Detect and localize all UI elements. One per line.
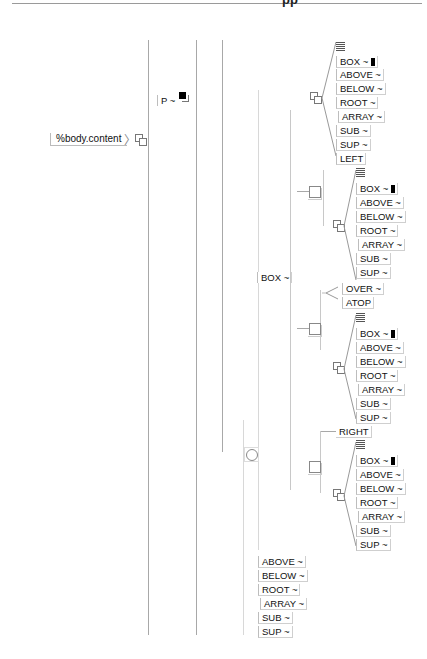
g2-stem	[323, 170, 324, 226]
g3-head-0[interactable]: OVER ~	[342, 283, 384, 295]
g2-list-icon	[356, 168, 365, 178]
g3-stem-a	[320, 290, 321, 350]
top-rule	[12, 3, 422, 4]
g4-head-0[interactable]: RIGHT	[336, 426, 372, 438]
g2-box-icon[interactable]	[309, 186, 321, 198]
stem-main	[290, 110, 291, 490]
g2-item-6[interactable]: SUP ~	[356, 267, 391, 279]
g4-item-1[interactable]: ABOVE ~	[356, 469, 404, 481]
g1-item-6[interactable]: SUP ~	[336, 139, 371, 151]
g4-item-4[interactable]: ARRAY ~	[358, 511, 405, 523]
bottom-item-3[interactable]: ARRAY ~	[260, 598, 307, 610]
g3-item-6[interactable]: SUP ~	[356, 412, 391, 424]
g3-head-connector	[322, 283, 342, 305]
g2-item-4[interactable]: ARRAY ~	[358, 239, 405, 251]
rail-3	[222, 40, 223, 452]
g4-item-0[interactable]: BOX ~	[356, 455, 398, 467]
bottom-item-0[interactable]: ABOVE ~	[258, 556, 306, 568]
g4-list-icon	[356, 440, 365, 450]
circle-node-icon[interactable]	[246, 449, 258, 461]
g3-item-1[interactable]: ABOVE ~	[356, 342, 404, 354]
g3-box-icon[interactable]	[309, 323, 321, 335]
g4-box-icon[interactable]	[309, 461, 321, 473]
root-node[interactable]: %body.content	[50, 133, 127, 146]
g3-head-1[interactable]: ATOP	[342, 297, 374, 309]
box-node[interactable]: BOX ~	[257, 272, 292, 283]
g3-item-0[interactable]: BOX ~	[356, 328, 398, 340]
stacked-squares-icon[interactable]	[135, 134, 146, 145]
rail-4	[258, 90, 259, 550]
g4-item-5[interactable]: SUB ~	[356, 525, 391, 537]
g2-item-3[interactable]: ROOT ~	[356, 225, 398, 237]
group-1-list-icon	[336, 42, 345, 52]
filled-square-stacked-icon[interactable]	[179, 92, 190, 103]
g2-item-5[interactable]: SUB ~	[356, 253, 391, 265]
g3-item-2[interactable]: BELOW ~	[356, 356, 406, 368]
g1-item-3[interactable]: ROOT ~	[336, 97, 378, 109]
bottom-item-1[interactable]: BELOW ~	[258, 570, 308, 582]
g1-item-4[interactable]: ARRAY ~	[338, 111, 385, 123]
root-label: %body.content	[56, 133, 121, 144]
g4-item-6[interactable]: SUP ~	[356, 539, 391, 551]
g4-item-2[interactable]: BELOW ~	[356, 483, 406, 495]
g1-trailer[interactable]: LEFT	[336, 153, 366, 165]
header-fragment: pp	[282, 0, 298, 7]
g3-item-5[interactable]: SUB ~	[356, 398, 391, 410]
g2-item-0[interactable]: BOX ~	[356, 183, 398, 195]
bottom-item-2[interactable]: ROOT ~	[258, 584, 300, 596]
g1-item-1[interactable]: ABOVE ~	[336, 69, 384, 81]
g2-item-2[interactable]: BELOW ~	[356, 211, 406, 223]
g1-item-2[interactable]: BELOW ~	[336, 83, 386, 95]
rail-2	[196, 40, 197, 635]
g2-item-1[interactable]: ABOVE ~	[356, 197, 404, 209]
g4-head-branch	[320, 431, 336, 432]
bottom-item-4[interactable]: SUB ~	[258, 612, 293, 624]
g3-list-icon	[356, 313, 365, 323]
p-node[interactable]: P ~	[157, 95, 177, 106]
rail-1	[148, 40, 149, 635]
g1-item-0[interactable]: BOX ~	[336, 56, 378, 68]
g3-item-4[interactable]: ARRAY ~	[358, 384, 405, 396]
g3-item-3[interactable]: ROOT ~	[356, 370, 398, 382]
g4-item-3[interactable]: ROOT ~	[356, 497, 398, 509]
g1-item-5[interactable]: SUB ~	[336, 125, 371, 137]
bottom-item-5[interactable]: SUP ~	[258, 626, 293, 638]
